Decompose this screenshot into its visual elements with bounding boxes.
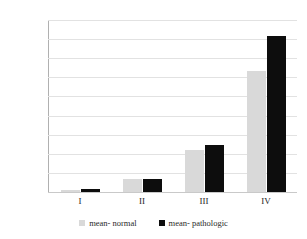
- bar-chart: 050010001500200025003000350040004500 III…: [0, 0, 307, 239]
- bar: [185, 150, 204, 192]
- legend-item[interactable]: mean- normal: [79, 219, 136, 228]
- bar: [81, 189, 100, 192]
- legend-swatch-icon: [79, 220, 85, 226]
- bars-layer: [49, 20, 297, 192]
- bar: [123, 179, 142, 192]
- bar-group: [111, 20, 173, 192]
- gridline: [48, 192, 297, 193]
- legend-swatch-icon: [159, 220, 165, 226]
- bar: [267, 36, 286, 192]
- bar-group: [49, 20, 111, 192]
- x-axis-tick-label: II: [139, 196, 145, 207]
- bar-group: [235, 20, 297, 192]
- bar: [61, 190, 80, 192]
- legend-item[interactable]: mean- pathologic: [159, 219, 228, 228]
- bar: [143, 179, 162, 192]
- chart-legend: mean- normalmean- pathologic: [0, 219, 307, 228]
- legend-label: mean- normal: [89, 219, 136, 228]
- bar-group: [173, 20, 235, 192]
- x-axis-tick-label: III: [200, 196, 209, 207]
- x-axis-ticks: IIIIIIIV: [49, 196, 297, 212]
- legend-label: mean- pathologic: [169, 219, 228, 228]
- bar: [205, 145, 224, 192]
- x-axis-tick-label: IV: [261, 196, 271, 207]
- x-axis-tick-label: I: [79, 196, 82, 207]
- bar: [247, 71, 266, 192]
